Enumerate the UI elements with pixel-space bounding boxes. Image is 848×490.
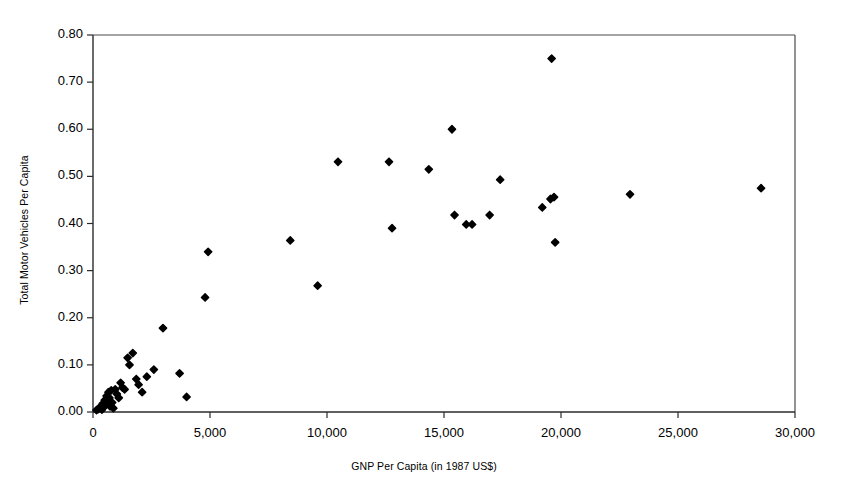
- plot-area: [0, 0, 848, 490]
- data-point: [205, 248, 212, 255]
- x-axis-title: GNP Per Capita (in 1987 US$): [0, 460, 848, 472]
- data-point: [126, 361, 133, 368]
- data-point: [201, 294, 208, 301]
- data-point: [159, 325, 166, 332]
- data-point: [143, 373, 150, 380]
- data-point: [451, 211, 458, 218]
- data-point: [425, 166, 432, 173]
- data-point: [497, 176, 504, 183]
- data-point: [129, 349, 136, 356]
- data-point: [176, 370, 183, 377]
- data-point: [539, 204, 546, 211]
- data-point: [287, 237, 294, 244]
- scatter-chart-figure: Total Motor Vehicles Per Capita 0.000.10…: [0, 0, 848, 490]
- data-point: [548, 55, 555, 62]
- data-series-countries: [93, 55, 765, 414]
- data-point: [468, 221, 475, 228]
- data-point: [486, 211, 493, 218]
- data-point: [552, 239, 559, 246]
- data-point: [626, 191, 633, 198]
- data-point: [757, 185, 764, 192]
- data-point: [388, 225, 395, 232]
- data-point: [334, 158, 341, 165]
- x-axis-title-text: GNP Per Capita (in 1987 US$): [351, 460, 497, 472]
- data-point: [124, 354, 131, 361]
- data-point: [139, 389, 146, 396]
- data-point: [385, 158, 392, 165]
- data-point: [314, 282, 321, 289]
- data-point: [150, 366, 157, 373]
- data-point: [183, 393, 190, 400]
- data-point: [448, 126, 455, 133]
